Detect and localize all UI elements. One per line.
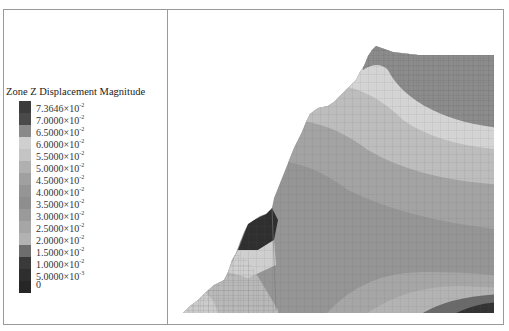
color-legend: Zone Z Displacement Magnitude 7.3646×10-… xyxy=(6,86,166,99)
legend-swatch xyxy=(19,149,31,161)
legend-swatch xyxy=(19,233,31,245)
legend-swatch xyxy=(19,101,31,113)
legend-title: Zone Z Displacement Magnitude xyxy=(6,86,166,97)
legend-swatch xyxy=(19,245,31,257)
legend-swatch xyxy=(19,113,31,125)
legend-swatch xyxy=(19,269,31,281)
legend-label: 5.0000×10-3 xyxy=(36,267,84,283)
legend-swatch xyxy=(19,257,31,269)
legend-swatch xyxy=(19,281,31,293)
legend-swatch xyxy=(19,221,31,233)
legend-label: 0 xyxy=(36,279,41,291)
legend-swatch xyxy=(19,197,31,209)
slope-mesh-contour xyxy=(168,10,504,324)
legend-swatch xyxy=(19,209,31,221)
legend-swatch xyxy=(19,137,31,149)
contour-plot xyxy=(168,10,504,324)
legend-swatch xyxy=(19,125,31,137)
legend-swatch xyxy=(19,173,31,185)
legend-swatch xyxy=(19,185,31,197)
legend-swatch xyxy=(19,161,31,173)
